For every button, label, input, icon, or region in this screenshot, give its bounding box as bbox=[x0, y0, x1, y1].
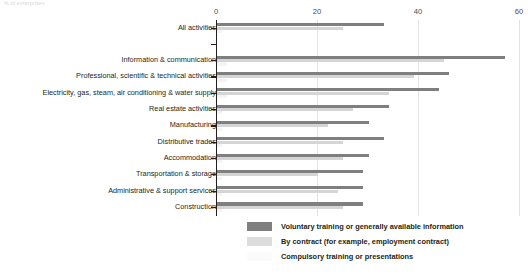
category-tick bbox=[211, 44, 217, 45]
x-tick-label-60: 60 bbox=[515, 7, 523, 16]
bar-series-2 bbox=[217, 177, 222, 180]
category-label: Real estate activities bbox=[149, 105, 216, 113]
legend-item-2[interactable]: Compulsory training or presentations bbox=[247, 249, 528, 264]
bar-series-1 bbox=[217, 27, 343, 30]
bar-series-1 bbox=[217, 157, 343, 160]
category-label: Construction bbox=[175, 203, 216, 211]
legend-label: Compulsory training or presentations bbox=[281, 252, 413, 261]
legend-item-0[interactable]: Voluntary training or generally availabl… bbox=[247, 219, 528, 234]
bar-series-1 bbox=[217, 75, 414, 78]
bar-series-2 bbox=[217, 160, 222, 163]
category-label: Electricity, gas, steam, air conditionin… bbox=[43, 89, 216, 97]
bar-series-2 bbox=[217, 30, 222, 33]
bar-group-distributive-trades: Distributive trades bbox=[0, 134, 528, 150]
bar-series-2 bbox=[217, 79, 227, 82]
category-label: Transportation & storage bbox=[136, 170, 216, 178]
legend-label: Voluntary training or generally availabl… bbox=[281, 222, 464, 231]
bar-group-information-communication: Information & communication bbox=[0, 53, 528, 69]
bar-series-1 bbox=[217, 190, 338, 193]
legend-swatch-icon-2 bbox=[247, 252, 272, 261]
bar-series-2 bbox=[217, 111, 222, 114]
bar-series-2 bbox=[217, 144, 222, 147]
category-label: Information & communication bbox=[122, 56, 217, 64]
bar-group-accommodation: Accommodation bbox=[0, 150, 528, 166]
x-tick-label-20: 20 bbox=[313, 7, 321, 16]
category-label: Manufacturing bbox=[170, 121, 216, 129]
bar-series-2 bbox=[217, 95, 227, 98]
legend-swatch-icon-0 bbox=[247, 222, 272, 231]
bar-series-1 bbox=[217, 173, 318, 176]
chart-legend: Voluntary training or generally availabl… bbox=[247, 219, 528, 264]
bar-series-1 bbox=[217, 141, 343, 144]
bar-series-1 bbox=[217, 59, 444, 62]
bar-series-1 bbox=[217, 92, 389, 95]
bar-group-electricity-gas-steam-air-conditioning-water-supply: Electricity, gas, steam, air conditionin… bbox=[0, 85, 528, 101]
category-label: Accommodation bbox=[164, 154, 216, 162]
x-tick-label-40: 40 bbox=[414, 7, 422, 16]
category-label: Distributive trades bbox=[158, 138, 216, 146]
legend-item-1[interactable]: By contract (for example, employment con… bbox=[247, 234, 528, 249]
bar-chart: % of enterprises 0204060 All activitiesI… bbox=[0, 0, 528, 275]
bar-series-2 bbox=[217, 62, 227, 65]
bar-group-manufacturing: Manufacturing bbox=[0, 118, 528, 134]
bar-series-2 bbox=[217, 209, 222, 212]
category-label: Administrative & support services bbox=[108, 187, 216, 195]
bar-group-all-activities: All activities bbox=[0, 20, 528, 36]
x-tick-label-0: 0 bbox=[214, 7, 218, 16]
bar-series-2 bbox=[217, 128, 222, 131]
category-label: All activities bbox=[178, 24, 216, 32]
bar-group-construction: Construction bbox=[0, 199, 528, 215]
bar-series-1 bbox=[217, 206, 343, 209]
bar-group-transportation-storage: Transportation & storage bbox=[0, 167, 528, 183]
bar-group-professional-scientific-technical-activities: Professional, scientific & technical act… bbox=[0, 69, 528, 85]
legend-swatch-icon-1 bbox=[247, 237, 272, 246]
category-label: Professional, scientific & technical act… bbox=[76, 72, 216, 80]
unit-note: % of enterprises bbox=[4, 0, 45, 6]
bar-series-1 bbox=[217, 124, 328, 127]
bar-series-2 bbox=[217, 193, 222, 196]
bar-group-administrative-support-services: Administrative & support services bbox=[0, 183, 528, 199]
bar-series-1 bbox=[217, 108, 353, 111]
legend-label: By contract (for example, employment con… bbox=[281, 237, 449, 246]
bar-group-real-estate-activities: Real estate activities bbox=[0, 102, 528, 118]
bar-group-empty bbox=[0, 36, 528, 52]
